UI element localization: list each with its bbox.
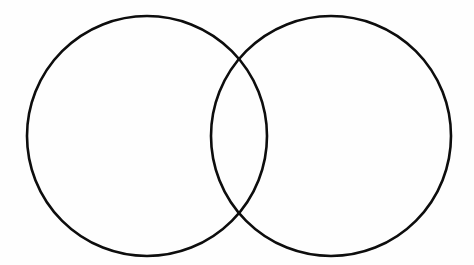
left-circle (27, 16, 267, 256)
diagram-canvas (0, 0, 474, 265)
right-circle (211, 16, 451, 256)
venn-diagram (0, 0, 474, 265)
